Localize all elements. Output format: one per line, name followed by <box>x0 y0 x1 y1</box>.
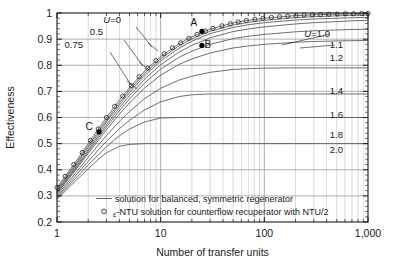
ytick-label: 0.5 <box>37 137 52 149</box>
label-u-2-0: 2.0 <box>330 144 343 155</box>
point-a-marker <box>199 29 204 34</box>
ytick-label: 0.3 <box>37 189 52 201</box>
xtick-label: 10 <box>155 227 167 239</box>
y-axis-title: Effectiveness <box>4 86 16 148</box>
label-u-1-2: 1.2 <box>330 52 343 63</box>
ytick-label: 0.6 <box>37 111 52 123</box>
x-axis-title: Number of transfer units <box>156 246 269 258</box>
label-u-1-1: 1.1 <box>330 39 343 50</box>
ytick-label: 0.7 <box>37 85 52 97</box>
point-b-label: B <box>205 39 212 50</box>
xtick-label: 100 <box>256 227 274 239</box>
point-a-label: A <box>191 17 198 28</box>
ytick-label: 0.2 <box>37 216 52 228</box>
legend-label-epsilon-ntu: ε-NTU solution for counterflow recuperat… <box>113 207 329 219</box>
label-u-1-8: 1.8 <box>330 129 343 140</box>
xtick-label: 1 <box>54 227 60 239</box>
point-c-label: C <box>86 121 93 132</box>
label-u-1-6: 1.6 <box>330 109 343 120</box>
xtick-label: 1,000 <box>355 227 381 239</box>
label-u-0-5: 0.5 <box>90 26 103 37</box>
point-c-marker <box>97 129 102 134</box>
chart-figure: 1101001,0000.20.30.40.50.60.70.80.91Numb… <box>0 0 393 275</box>
label-u-1-0: U=1.0 <box>304 28 330 39</box>
label-u-0: U=0 <box>103 14 121 25</box>
ytick-label: 0.8 <box>37 59 52 71</box>
ytick-label: 0.4 <box>37 163 52 175</box>
ytick-label: 0.9 <box>37 33 52 45</box>
label-u-0-75: 0.75 <box>65 39 84 50</box>
effectiveness-vs-ntu-chart: 1101001,0000.20.30.40.50.60.70.80.91Numb… <box>0 0 393 275</box>
legend-label-regenerator: solution for balanced, symmetric regener… <box>115 194 293 204</box>
ytick-label: 1 <box>46 7 52 19</box>
label-u-1-4: 1.4 <box>330 85 343 96</box>
